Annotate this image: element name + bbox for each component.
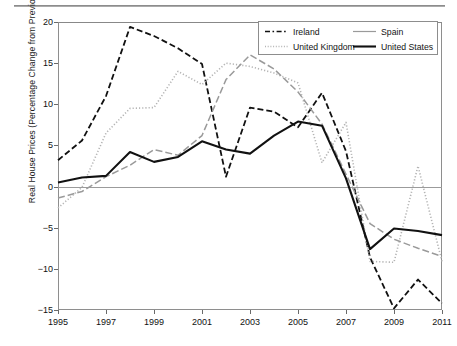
series-line-spain	[58, 55, 442, 257]
x-tick-label: 1995	[48, 317, 68, 327]
series-line-united-states	[58, 122, 442, 250]
x-tick-label: 2009	[384, 317, 404, 327]
y-tick-label: 10	[43, 99, 53, 109]
x-tick-mark	[394, 310, 395, 314]
series-lines	[58, 22, 442, 310]
solid-thick-line-sample	[352, 42, 377, 51]
legend-entry-united-kingdom: United Kingdom	[264, 42, 352, 52]
legend-label: United States	[381, 42, 433, 52]
legend-label: Ireland	[293, 27, 320, 37]
y-tick-label: −5	[43, 223, 53, 233]
x-tick-mark	[154, 310, 155, 314]
legend-entry-ireland: Ireland	[264, 27, 352, 37]
legend-entry-united-states: United States	[352, 42, 433, 52]
x-tick-mark	[202, 310, 203, 314]
legend-entry-spain: Spain	[352, 27, 403, 37]
legend-label: United Kingdom	[293, 42, 355, 52]
y-tick-label: 20	[43, 17, 53, 27]
x-tick-mark	[106, 310, 107, 314]
x-tick-label: 2005	[288, 317, 308, 327]
y-tick-label: 15	[43, 58, 53, 68]
top-divider	[14, 5, 445, 7]
chart-figure: Real House Prices (Percentage Change fro…	[0, 0, 457, 346]
x-tick-mark	[298, 310, 299, 314]
x-tick-label: 1997	[96, 317, 116, 327]
y-tick-label: 0	[48, 182, 53, 192]
solid-thin-line-sample	[352, 27, 377, 36]
chart-legend: Ireland Spain United Kingdom United S	[258, 21, 438, 55]
x-tick-label: 2003	[240, 317, 260, 327]
legend-row: United Kingdom United States	[264, 39, 433, 54]
legend-label: Spain	[381, 27, 403, 37]
x-tick-label: 2007	[336, 317, 356, 327]
legend-row: Ireland Spain	[264, 24, 433, 39]
dashed-line-sample	[264, 27, 289, 36]
series-line-united-kingdom	[58, 63, 442, 262]
x-tick-label: 2001	[192, 317, 212, 327]
x-tick-mark	[250, 310, 251, 314]
dotted-line-sample	[264, 42, 289, 51]
x-tick-mark	[58, 310, 59, 314]
x-tick-mark	[346, 310, 347, 314]
y-tick-label: −15	[38, 305, 53, 315]
x-tick-label: 2011	[432, 317, 451, 327]
y-axis-label: Real House Prices (Percentage Change fro…	[27, 0, 37, 225]
y-tick-label: −10	[38, 264, 53, 274]
x-tick-mark	[442, 310, 443, 314]
x-tick-label: 1999	[144, 317, 164, 327]
y-tick-label: 5	[48, 140, 53, 150]
plot-area: 20151050−5−10−15 19951997199920012003200…	[58, 22, 442, 310]
